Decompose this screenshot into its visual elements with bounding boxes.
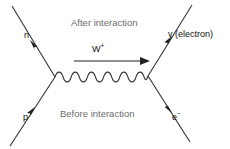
fermion-line-neutron (12, 6, 55, 77)
particle-label-electron-superscript: − (177, 110, 181, 117)
feynman-diagram: n v (electron) p e− W+ After interaction… (0, 0, 230, 149)
w-boson-direction-arrowhead-icon (140, 57, 150, 65)
particle-label-neutron: n (24, 31, 29, 40)
boson-label-w: W+ (92, 45, 104, 54)
particle-label-electron: e− (172, 113, 181, 122)
phase-label-before: Before interaction (60, 109, 134, 119)
phase-label-after: After interaction (71, 18, 138, 28)
particle-label-proton: p (23, 113, 28, 122)
particle-label-neutrino: v (electron) (168, 30, 213, 39)
fermion-line-neutrino (148, 5, 192, 76)
boson-label-symbol: W (92, 44, 101, 54)
boson-label-charge: + (101, 42, 105, 49)
w-boson-propagator (55, 72, 148, 82)
